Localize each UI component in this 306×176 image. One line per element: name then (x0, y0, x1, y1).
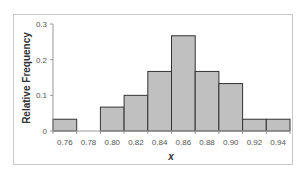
histogram-bar (124, 95, 148, 131)
histogram-bar (172, 36, 196, 131)
histogram-chart: 00.10.20.3 0.760.780.800.820.840.860.880… (0, 0, 306, 176)
x-axis-label: x (167, 151, 174, 162)
y-tick-label: 0 (43, 127, 48, 136)
y-axis: 00.10.20.3 (36, 20, 53, 136)
histogram-bar (219, 84, 243, 131)
x-tick-label: 0.86 (176, 138, 192, 147)
x-tick-label: 0.76 (57, 138, 73, 147)
y-tick-label: 0.2 (36, 56, 48, 65)
x-axis: 0.760.780.800.820.840.860.880.900.920.94 (53, 131, 290, 147)
x-tick-label: 0.78 (81, 138, 97, 147)
histogram-bar (148, 71, 172, 131)
x-tick-label: 0.90 (223, 138, 239, 147)
histogram-bar (100, 107, 124, 131)
x-tick-label: 0.92 (247, 138, 263, 147)
x-tick-label: 0.94 (270, 138, 286, 147)
y-axis-label: Relative Frequency (21, 32, 32, 124)
histogram-bar (266, 119, 290, 131)
y-tick-label: 0.1 (36, 91, 48, 100)
x-tick-label: 0.80 (104, 138, 120, 147)
bars-group (53, 36, 290, 131)
y-tick-label: 0.3 (36, 20, 48, 29)
x-tick-label: 0.84 (152, 138, 168, 147)
histogram-bar (243, 119, 267, 131)
x-tick-label: 0.88 (199, 138, 215, 147)
x-tick-label: 0.82 (128, 138, 144, 147)
histogram-bar (195, 71, 219, 131)
histogram-bar (53, 119, 77, 131)
